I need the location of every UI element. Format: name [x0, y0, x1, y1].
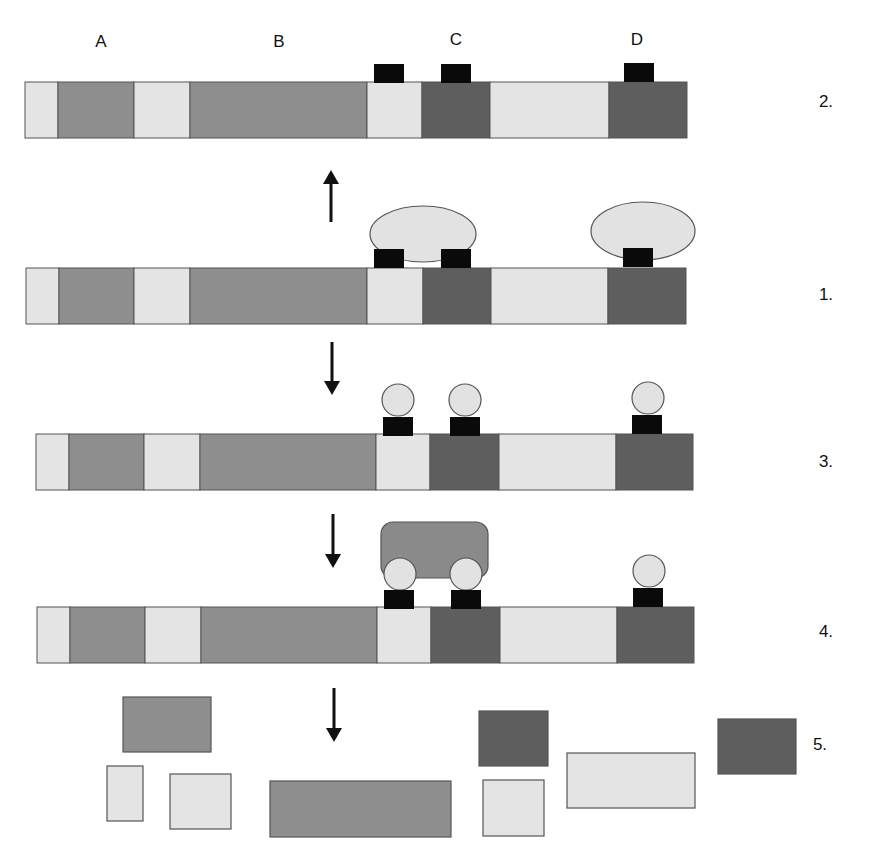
dna-fragment-light [483, 780, 544, 836]
dna-segment-dark [423, 268, 491, 324]
bound-factor-circle [450, 558, 482, 590]
dna-segment-light [134, 268, 190, 324]
step-label: 3. [819, 452, 833, 471]
dna-rows: 2.1.3.4. [25, 63, 833, 663]
binding-site-marker [633, 588, 663, 607]
bound-factor-circle [633, 555, 665, 587]
binding-site-marker [383, 417, 413, 436]
row-4: 4. [37, 522, 833, 663]
binding-site-marker [374, 249, 404, 268]
dna-segment-medium [190, 268, 367, 324]
step-label: 5. [813, 735, 827, 754]
dna-segment-light [367, 268, 423, 324]
dna-fragment-dark [718, 719, 796, 774]
binding-site-marker [441, 249, 471, 268]
dna-segment-medium [69, 434, 144, 490]
dna-segment-light [491, 268, 608, 324]
dna-segment-light [26, 268, 59, 324]
binding-site-marker [451, 590, 481, 609]
arrow-1-to-2-icon [323, 170, 339, 222]
dna-segment-medium [201, 607, 377, 663]
arrow-1-to-3-icon [324, 342, 340, 395]
binding-site-marker [450, 417, 480, 436]
dna-segment-dark [616, 434, 693, 490]
binding-site-marker [441, 64, 471, 83]
dna-fragment-medium [123, 697, 211, 752]
dna-segment-medium [58, 82, 134, 138]
dna-fragment-light [107, 766, 143, 821]
dna-segment-light [37, 607, 70, 663]
step-label: 4. [819, 622, 833, 641]
dna-segment-medium [59, 268, 134, 324]
column-label-a: A [95, 32, 107, 51]
binding-site-marker [623, 248, 653, 267]
dna-segment-dark [608, 268, 686, 324]
step-label: 1. [819, 285, 833, 304]
binding-site-marker [384, 590, 414, 609]
dna-segment-dark [617, 607, 694, 663]
dna-segment-light [144, 434, 200, 490]
dna-segment-light [145, 607, 201, 663]
column-labels: ABCD [95, 30, 643, 51]
arrow-3-to-4-icon [325, 514, 341, 568]
row-2: 2. [25, 63, 833, 138]
binding-site-marker [374, 64, 404, 83]
bound-factor-circle [382, 384, 414, 416]
dna-segment-light [367, 82, 422, 138]
bound-factor-circle [384, 558, 416, 590]
dna-segment-dark [422, 82, 490, 138]
dna-fragment-dark [479, 711, 548, 766]
dna-segment-light [490, 82, 609, 138]
dna-segment-medium [200, 434, 376, 490]
dna-segment-light [25, 82, 58, 138]
column-label-c: C [450, 30, 462, 49]
step-label: 2. [819, 92, 833, 111]
dna-segment-light [36, 434, 69, 490]
arrow-4-to-5-icon [326, 688, 342, 742]
dna-segment-light [376, 434, 430, 490]
chromatin-digestion-diagram: ABCD 2.1.3.4. 5. [0, 0, 873, 855]
binding-site-marker [624, 63, 654, 82]
dna-fragment-light [170, 774, 231, 829]
dna-segment-dark [430, 434, 499, 490]
column-label-b: B [273, 32, 284, 51]
dna-segment-medium [70, 607, 145, 663]
digestion-fragments: 5. [107, 697, 827, 837]
bound-factor-circle [449, 384, 481, 416]
dna-segment-medium [190, 82, 367, 138]
row-1: 1. [26, 202, 833, 324]
dna-segment-dark [431, 607, 500, 663]
dna-segment-light [134, 82, 190, 138]
binding-site-marker [632, 415, 662, 434]
row-3: 3. [36, 382, 833, 490]
column-label-d: D [631, 30, 643, 49]
dna-fragment-medium [270, 781, 451, 837]
dna-segment-light [499, 434, 616, 490]
bound-factor-circle [632, 382, 664, 414]
dna-segment-light [377, 607, 431, 663]
dna-fragment-light [567, 753, 695, 808]
dna-segment-dark [609, 82, 687, 138]
dna-segment-light [500, 607, 617, 663]
